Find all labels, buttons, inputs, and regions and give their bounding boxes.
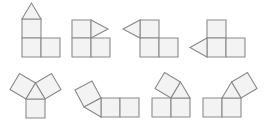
square-face: [222, 98, 241, 117]
square-face: [207, 20, 226, 38]
figure-net-8: [203, 73, 257, 118]
square-face: [140, 20, 159, 38]
square-face: [171, 98, 190, 117]
square-face: [159, 38, 178, 57]
square-face: [22, 19, 41, 38]
square-face: [203, 98, 222, 117]
triangle-face: [123, 20, 140, 38]
square-face: [120, 98, 139, 117]
square-face: [226, 38, 245, 57]
figure-net-2: [72, 20, 110, 57]
figure-net-1: [22, 3, 60, 57]
square-face: [101, 98, 120, 117]
triangle-face: [91, 20, 108, 38]
square-face: [207, 38, 226, 57]
square-face: [152, 98, 171, 117]
square-face: [22, 38, 41, 57]
figure-net-4: [190, 20, 245, 57]
diagram-canvas: [0, 0, 271, 123]
square-face: [41, 38, 60, 57]
cube-net-diagram: [0, 0, 271, 123]
triangle-face: [22, 3, 41, 19]
figure-net-5: [10, 74, 61, 119]
triangle-face: [190, 38, 207, 57]
square-face: [26, 99, 45, 118]
figure-net-3: [123, 20, 178, 57]
square-face: [72, 38, 91, 57]
square-face: [72, 20, 91, 38]
square-face: [91, 38, 110, 57]
square-face: [140, 38, 159, 57]
figure-net-6: [75, 81, 139, 117]
figure-net-7: [152, 73, 190, 118]
